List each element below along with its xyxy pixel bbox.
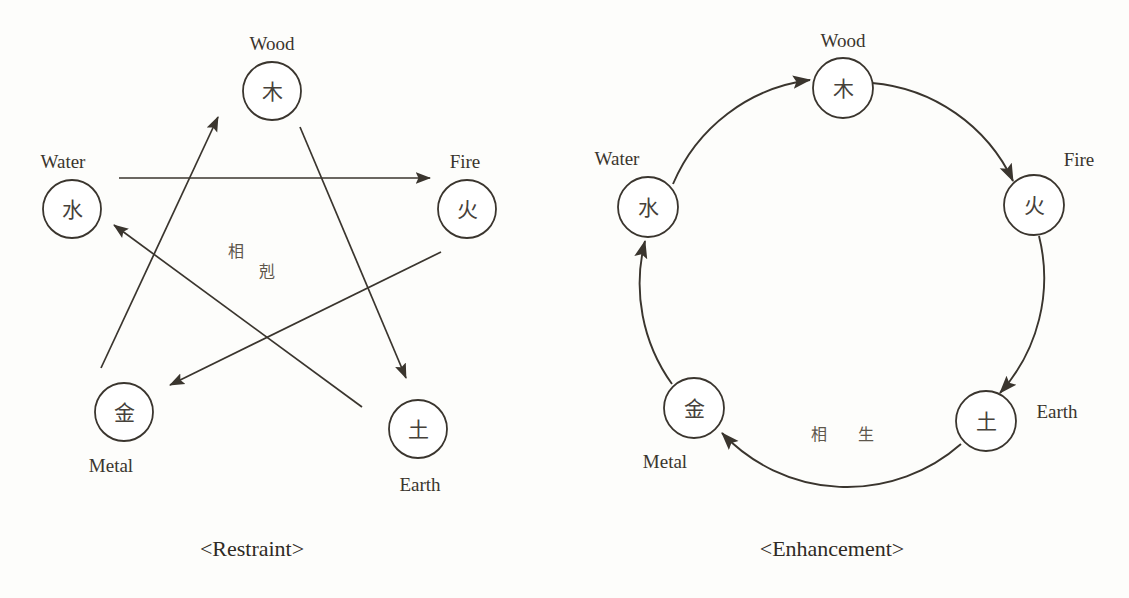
metal-label-enhancement: Metal <box>643 451 687 472</box>
restraint-phrase-char-2: 剋 <box>259 262 275 281</box>
edge-metal-to-water <box>640 241 672 384</box>
diagram-canvas: 木 Wood 火 Fire 土 Earth 金 Metal 水 Water 相 … <box>0 0 1129 598</box>
water-glyph: 水 <box>62 198 83 222</box>
fire-label: Fire <box>450 151 481 172</box>
restraint-node-fire[interactable]: 火 Fire <box>438 151 496 238</box>
earth-label-enhancement: Earth <box>1036 401 1078 422</box>
wood-glyph-enhancement: 木 <box>833 77 854 101</box>
restraint-diagram: 木 Wood 火 Fire 土 Earth 金 Metal 水 Water 相 … <box>0 0 1129 598</box>
earth-label: Earth <box>399 474 441 495</box>
edge-wood-to-earth <box>300 127 406 378</box>
edge-earth-to-metal <box>722 433 961 487</box>
earth-glyph-enhancement: 土 <box>976 410 997 434</box>
edge-wood-to-fire <box>872 83 1013 181</box>
edge-metal-to-wood <box>101 117 218 368</box>
enhancement-node-water[interactable]: 水 Water <box>595 148 678 237</box>
metal-glyph-enhancement: 金 <box>684 397 705 421</box>
restraint-node-water[interactable]: 水 Water <box>41 151 101 238</box>
enhancement-phrase-char-2: 生 <box>858 425 874 444</box>
earth-glyph: 土 <box>408 418 429 442</box>
enhancement-caption: <Enhancement> <box>760 536 905 561</box>
edge-fire-to-earth <box>1000 236 1044 393</box>
restraint-phrase-char-1: 相 <box>228 242 244 261</box>
restraint-node-earth[interactable]: 土 Earth <box>389 400 447 495</box>
enhancement-phrase-char-1: 相 <box>811 425 827 444</box>
metal-label: Metal <box>89 455 133 476</box>
wood-glyph: 木 <box>262 80 283 104</box>
enhancement-node-earth[interactable]: 土 Earth <box>956 391 1078 451</box>
restraint-node-metal[interactable]: 金 Metal <box>89 383 153 476</box>
restraint-node-wood[interactable]: 木 Wood <box>243 33 301 120</box>
enhancement-node-metal[interactable]: 金 Metal <box>643 378 724 472</box>
fire-glyph: 火 <box>457 198 478 222</box>
water-glyph-enhancement: 水 <box>638 196 659 220</box>
wood-label-enhancement: Wood <box>821 30 866 51</box>
enhancement-node-wood[interactable]: 木 Wood <box>813 30 873 118</box>
metal-glyph: 金 <box>114 401 135 425</box>
edge-water-to-wood <box>673 80 810 184</box>
fire-glyph-enhancement: 火 <box>1024 194 1045 218</box>
restraint-caption: <Restraint> <box>200 536 304 561</box>
enhancement-node-fire[interactable]: 火 Fire <box>1004 149 1094 235</box>
water-label: Water <box>41 151 87 172</box>
fire-label-enhancement: Fire <box>1064 149 1095 170</box>
water-label-enhancement: Water <box>595 148 641 169</box>
wood-label: Wood <box>250 33 295 54</box>
